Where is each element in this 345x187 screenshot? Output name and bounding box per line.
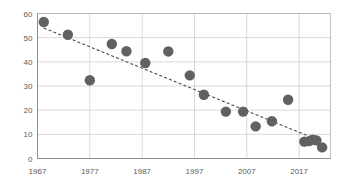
data-point xyxy=(317,142,327,152)
x-tick-label: 1987 xyxy=(133,167,151,176)
data-point xyxy=(283,95,293,105)
data-point xyxy=(63,30,73,40)
x-tick-label: 2017 xyxy=(290,167,308,176)
x-tick-label: 2007 xyxy=(238,167,256,176)
data-point xyxy=(221,106,231,116)
data-point xyxy=(199,90,209,100)
data-point xyxy=(107,39,117,49)
data-point xyxy=(267,116,277,126)
y-tick-label: 50 xyxy=(24,34,33,43)
y-axis-tick-labels: 0102030405060 xyxy=(24,10,33,164)
x-tick-label: 1997 xyxy=(186,167,204,176)
data-point xyxy=(250,121,260,131)
data-point xyxy=(238,106,248,116)
x-tick-label: 1967 xyxy=(29,167,47,176)
data-point xyxy=(85,75,95,85)
data-point xyxy=(163,46,173,56)
chart-canvas: 0102030405060 196719771987199720072017 xyxy=(0,0,345,187)
y-tick-label: 30 xyxy=(24,82,33,91)
data-point xyxy=(121,46,131,56)
scatter-chart: 0102030405060 196719771987199720072017 xyxy=(0,0,345,187)
data-point xyxy=(140,58,150,68)
x-tick-label: 1977 xyxy=(81,167,99,176)
y-tick-label: 0 xyxy=(28,155,33,164)
y-tick-label: 10 xyxy=(24,130,33,139)
x-axis-tick-labels: 196719771987199720072017 xyxy=(29,167,309,176)
y-tick-label: 20 xyxy=(24,106,33,115)
data-point xyxy=(39,17,49,27)
y-tick-label: 60 xyxy=(24,10,33,19)
data-point xyxy=(185,70,195,80)
y-tick-label: 40 xyxy=(24,58,33,67)
